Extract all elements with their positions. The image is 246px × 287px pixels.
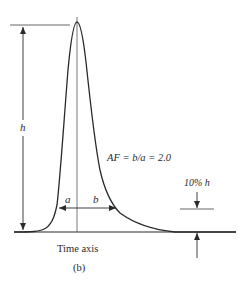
width-b-label: b [93,193,99,205]
x-axis-label: Time axis [57,243,98,254]
measure-level-label: 10% h [184,177,210,188]
width-a-label: a [65,193,71,205]
peak-diagram: h a b AF = b/a = 2.0 10% h Time axis (b) [0,0,246,287]
height-label: h [20,121,26,133]
asymmetry-formula: AF = b/a = 2.0 [106,152,172,163]
peak-curve [14,22,236,232]
panel-label: (b) [73,262,86,274]
